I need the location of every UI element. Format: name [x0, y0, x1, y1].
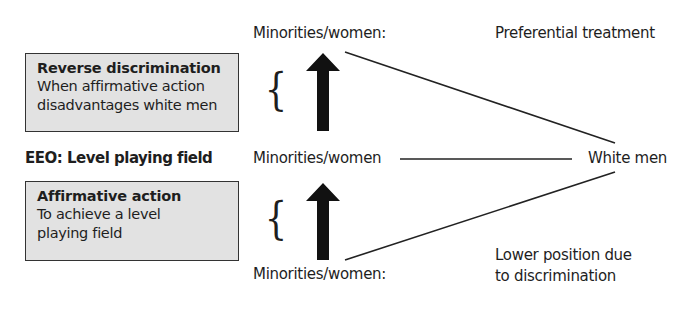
preferential-line [345, 52, 615, 143]
affirmative-action-line1: To achieve a level [37, 205, 238, 224]
white-men-label: White men [588, 149, 667, 167]
preferential-treatment-label: Preferential treatment [495, 24, 655, 42]
reverse-discrimination-line1: When affirmative action [37, 77, 238, 96]
lower-position-line1: Lower position due [495, 246, 632, 264]
minorities-bottom-label: Minorities/women: [253, 265, 386, 283]
reverse-discrimination-box: Reverse discrimination When affirmative … [25, 53, 239, 132]
affirmative-action-title: Affirmative action [37, 187, 238, 205]
brace-icon-top: { [265, 68, 287, 112]
brace-icon-bottom: { [265, 197, 287, 241]
reverse-discrimination-line2: disadvantages white men [37, 96, 238, 115]
up-arrow-icon-bottom [306, 183, 340, 260]
lower-position-line2: to discrimination [495, 267, 616, 285]
minorities-top-label: Minorities/women: [253, 24, 386, 42]
affirmative-action-box: Affirmative action To achieve a level pl… [25, 181, 239, 261]
reverse-discrimination-title: Reverse discrimination [37, 59, 238, 77]
up-arrow-icon-top [306, 53, 340, 131]
eeo-label: EEO: Level playing field [25, 149, 212, 167]
affirmative-action-line2: playing field [37, 224, 238, 243]
minorities-mid-label: Minorities/women [253, 149, 381, 167]
